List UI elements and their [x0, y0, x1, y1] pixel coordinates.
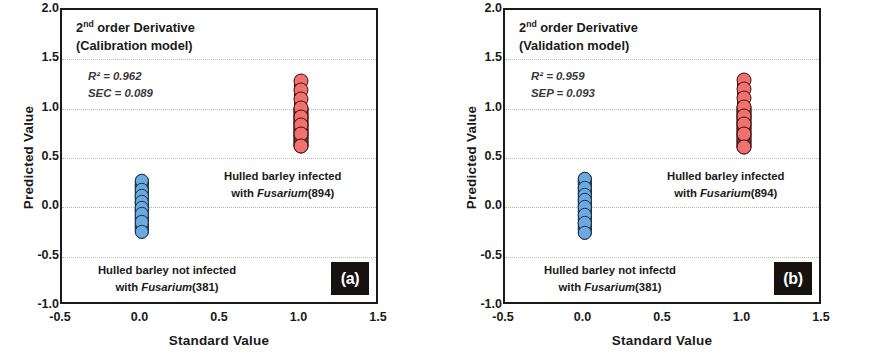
x-tick-label-1.5: 1.5 — [791, 310, 851, 324]
gridline-y-0 — [62, 207, 376, 208]
gridline-y-1.5 — [62, 59, 376, 60]
statistic-r2-a: R² = 0.962 — [88, 70, 142, 82]
annotation-clean-a-count: (381) — [192, 281, 218, 293]
plot-area-a: 2nd order Derivative (Calibration model)… — [60, 8, 378, 304]
x-tick-label-0: 0.0 — [110, 310, 170, 324]
gridline-y--0.5 — [505, 257, 819, 258]
annotation-clean-a-line1: Hulled barley not infected — [98, 264, 236, 276]
y-tick-label--0.5: -0.5 — [13, 248, 59, 262]
gridline-y-1 — [62, 109, 376, 110]
chart-title-b-superscript: nd — [526, 19, 537, 29]
data-point — [293, 139, 308, 154]
annotation-infected-b-prefix: with — [674, 187, 700, 199]
data-point — [577, 226, 591, 240]
annotation-clean-b-line1: Hulled barley not infectd — [544, 264, 676, 276]
statistic-sec-a: SEC = 0.089 — [88, 87, 153, 99]
y-tick-label-1.5: 1.5 — [13, 50, 59, 64]
annotation-clean-b-species: Fusarium — [584, 281, 635, 293]
annotation-infected-b-line1: Hulled barley infected — [667, 170, 784, 182]
annotation-infected-a-count: (894) — [308, 187, 334, 199]
annotation-clean-b-count: (381) — [635, 281, 661, 293]
chart-title-a-superscript: nd — [83, 19, 94, 29]
x-tick-label-1: 1.0 — [269, 310, 329, 324]
chart-title-a-rest: order Derivative — [94, 20, 195, 35]
gridline-y-0 — [505, 207, 819, 208]
y-tick-label-2: 2.0 — [456, 1, 502, 15]
annotation-clean-b-prefix: with — [559, 281, 585, 293]
y-tick-label-0: 0.0 — [13, 198, 59, 212]
y-tick-label--1: -1.0 — [456, 297, 502, 311]
y-tick-label-2: 2.0 — [13, 1, 59, 15]
plot-area-b: 2nd order Derivative (Validation model) … — [503, 8, 821, 304]
y-tick-label-1: 1.0 — [13, 100, 59, 114]
gridline-y-0.5 — [62, 158, 376, 159]
gridline-y-0.5 — [505, 158, 819, 159]
chart-title-b: 2nd order Derivative (Validation model) — [519, 19, 638, 55]
annotation-clean-a-prefix: with — [116, 281, 142, 293]
statistics-block-b: R² = 0.959 SEP = 0.093 — [531, 68, 595, 102]
y-tick-label--1: -1.0 — [13, 297, 59, 311]
y-tick-label-1: 1.0 — [456, 100, 502, 114]
gridline-y--0.5 — [62, 257, 376, 258]
panel-badge-b: (b) — [774, 262, 812, 295]
x-axis-title-b: Standard Value — [503, 333, 821, 348]
figure-root: Predicted Value 2nd order Derivative (Ca… — [0, 0, 886, 356]
annotation-infected-b: Hulled barley infected with Fusarium(894… — [667, 168, 784, 201]
data-point — [134, 225, 148, 239]
chart-title-b-line2: (Validation model) — [519, 38, 629, 53]
chart-title-b-line1: 2nd order Derivative — [519, 20, 638, 35]
chart-title-a-line2: (Calibration model) — [76, 38, 193, 53]
x-tick-label--0.5: -0.5 — [30, 310, 90, 324]
gridline-y-1.5 — [505, 59, 819, 60]
chart-title-a-line1: 2nd order Derivative — [76, 20, 195, 35]
annotation-clean-a: Hulled barley not infected with Fusarium… — [64, 262, 270, 295]
statistics-block-a: R² = 0.962 SEC = 0.089 — [88, 68, 153, 102]
x-tick-label-0.5: 0.5 — [632, 310, 692, 324]
x-tick-label-0.5: 0.5 — [189, 310, 249, 324]
statistic-sep-b: SEP = 0.093 — [531, 87, 595, 99]
y-tick-label-0: 0.0 — [456, 198, 502, 212]
annotation-infected-b-species: Fusarium — [700, 187, 751, 199]
x-tick-label--0.5: -0.5 — [473, 310, 533, 324]
annotation-infected-a-line1: Hulled barley infected — [224, 170, 341, 182]
annotation-infected-a: Hulled barley infected with Fusarium(894… — [224, 168, 341, 201]
x-tick-label-1: 1.0 — [712, 310, 772, 324]
y-tick-label-1.5: 1.5 — [456, 50, 502, 64]
annotation-infected-b-count: (894) — [751, 187, 777, 199]
x-tick-label-1.5: 1.5 — [348, 310, 408, 324]
gridline-y-1 — [505, 109, 819, 110]
annotation-infected-a-species: Fusarium — [257, 187, 308, 199]
x-tick-label-0: 0.0 — [553, 310, 613, 324]
data-point — [736, 140, 751, 155]
annotation-clean-b: Hulled barley not infectd with Fusarium(… — [507, 262, 713, 295]
y-tick-label-0.5: 0.5 — [456, 149, 502, 163]
x-axis-title-a: Standard Value — [60, 333, 378, 348]
y-tick-label--0.5: -0.5 — [456, 248, 502, 262]
chart-title-b-rest: order Derivative — [537, 20, 638, 35]
y-tick-label-0.5: 0.5 — [13, 149, 59, 163]
statistic-r2-b: R² = 0.959 — [531, 70, 585, 82]
panel-b: Predicted Value 2nd order Derivative (Va… — [443, 0, 886, 356]
panel-a: Predicted Value 2nd order Derivative (Ca… — [0, 0, 443, 356]
chart-title-a: 2nd order Derivative (Calibration model) — [76, 19, 195, 55]
annotation-clean-a-species: Fusarium — [141, 281, 192, 293]
annotation-infected-a-prefix: with — [231, 187, 257, 199]
panel-badge-a: (a) — [331, 262, 369, 295]
